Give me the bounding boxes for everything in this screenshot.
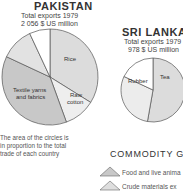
label-tea: Tea	[160, 74, 170, 80]
label-textile-2: and fabrics	[16, 94, 45, 100]
legend-swatch-crude	[100, 181, 120, 190]
label-rubber: Rubber	[128, 78, 148, 84]
legend-item-food: Food and live anima	[122, 169, 181, 176]
pakistan-pie	[2, 29, 98, 125]
legend-title: COMMODITY G	[110, 149, 183, 159]
label-textile-1: Textile yarns	[13, 87, 46, 93]
label-rice: Rice	[64, 56, 77, 62]
pie-charts: Rice Raw cotton Textile yarns and fabric…	[0, 0, 183, 195]
label-cotton: cotton	[67, 99, 83, 105]
note-line-3: trade of each country	[0, 150, 59, 158]
srilanka-pie	[121, 58, 183, 122]
note-line-2: in proportion to the total	[0, 142, 66, 150]
legend-item-crude: Crude materials ex	[122, 183, 177, 190]
legend-swatch-food	[100, 167, 120, 176]
note-line-1: The area of the circles is	[0, 134, 69, 142]
label-raw: Raw	[70, 92, 83, 98]
